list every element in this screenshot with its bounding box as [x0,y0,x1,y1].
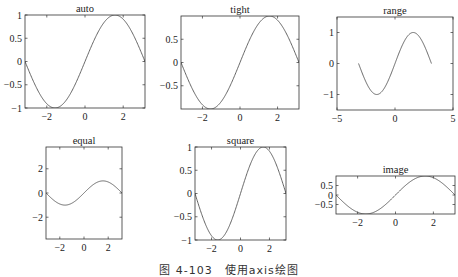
x-tick-label: 2 [431,217,436,228]
y-tick-label: −0.5 [160,80,178,91]
subplot-range: −505−101range [323,5,455,124]
sine-curve [195,147,286,240]
subplot-title: tight [230,4,249,15]
y-tick-label: −0.5 [174,211,192,222]
figure-caption: 图 4-103 使用axis绘图 [0,261,458,277]
y-tick-label: 0.5 [180,165,193,176]
y-tick-label: 0.5 [10,33,23,44]
sine-curve [25,15,145,108]
x-tick-label: 2 [275,112,280,123]
subplot-title: square [227,135,255,146]
y-tick-label: −2 [32,212,43,223]
x-tick-label: −5 [332,113,343,124]
subplot-title: auto [76,3,94,14]
subplot-tight: −202−0.500.5tight [160,4,299,123]
sine-curve [359,33,432,95]
y-tick-label: −0.5 [4,79,22,90]
y-tick-label: 1 [187,142,192,153]
y-tick-label: 0 [17,56,22,67]
y-tick-label: −0.5 [315,199,333,210]
x-tick-label: 2 [106,242,111,253]
y-tick-label: −1 [11,103,22,114]
x-tick-label: −2 [41,111,52,122]
subplot-image: −202−0.500.5image [315,164,455,228]
subplot-square: −202−1−0.500.51square [174,135,286,254]
y-tick-label: 0 [38,188,43,199]
x-tick-label: 5 [451,113,456,124]
subplot-equal: −202−202equal [32,135,122,253]
y-tick-label: 0.5 [166,34,179,45]
y-tick-label: −1 [323,89,334,100]
subplot-title: range [383,5,407,16]
subplot-title: image [383,164,409,175]
x-tick-label: −2 [206,243,217,254]
x-tick-label: 0 [83,111,88,122]
y-tick-label: −1 [181,235,192,246]
x-tick-label: 2 [121,111,126,122]
x-tick-label: 0 [238,243,243,254]
x-tick-label: −2 [54,242,65,253]
subplot-title: equal [73,135,96,146]
y-tick-label: 1 [17,10,22,21]
x-tick-label: −2 [197,112,208,123]
y-tick-label: 0 [173,57,178,68]
x-tick-label: 2 [267,243,272,254]
y-tick-label: 2 [38,163,43,174]
y-tick-label: 0 [328,190,333,201]
sine-curve [181,16,299,109]
y-tick-label: 0 [329,58,334,69]
sine-curve [336,176,455,214]
y-tick-label: 0.5 [321,180,334,191]
y-tick-label: 1 [329,27,334,38]
x-tick-label: 0 [238,112,243,123]
x-tick-label: 0 [393,217,398,228]
x-tick-label: 0 [393,113,398,124]
y-tick-label: 0 [187,188,192,199]
x-tick-label: 0 [82,242,87,253]
sine-curve [46,181,122,205]
x-tick-label: −2 [352,217,363,228]
subplot-auto: −202−1−0.500.51auto [4,3,145,122]
